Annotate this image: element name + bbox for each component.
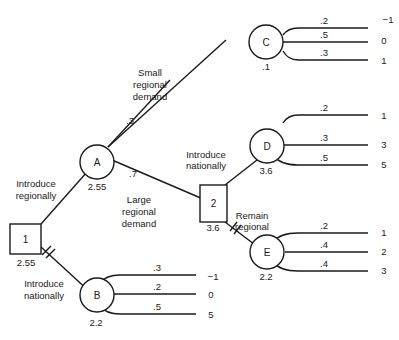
node-E-value: 2.2: [259, 271, 272, 282]
edge-label-small-3: demand: [133, 91, 167, 102]
node-A-label: A: [94, 157, 101, 168]
edge-label-introduce-nationally-2: nationally: [24, 290, 64, 301]
prob-D-3: .5: [320, 152, 328, 163]
payoff-B-1: −1: [208, 271, 219, 282]
node-C-value: .1: [262, 61, 270, 72]
prob-B-1: .3: [153, 262, 161, 273]
edge-label-large-2: regional: [122, 206, 156, 217]
prob-D-1: .2: [320, 102, 328, 113]
prob-C-2: .5: [320, 29, 328, 40]
edge-label-introduce-regionally-1: Introduce: [16, 178, 56, 189]
prob-C-3: .3: [320, 47, 328, 58]
prob-B-2: .2: [153, 281, 161, 292]
node-C-label: C: [262, 37, 269, 48]
payoff-C-3: 1: [381, 55, 386, 66]
payoff-E-3: 3: [381, 265, 386, 276]
prob-C-1: .2: [320, 15, 328, 26]
edge-label-small-1: Small: [138, 67, 162, 78]
node-2-value: 3.6: [206, 222, 219, 233]
payoff-C-2: 0: [381, 35, 386, 46]
node-D-value: 3.6: [259, 165, 272, 176]
prob-D-2: .3: [320, 132, 328, 143]
edge-label-remain-2: regional: [235, 221, 269, 232]
payoff-D-1: 1: [381, 110, 386, 121]
edge-label-2-introduce-2: nationally: [186, 160, 226, 171]
edge-label-large-1: Large: [127, 194, 151, 205]
node-B-label: B: [94, 290, 101, 301]
node-1-value: 2.55: [17, 257, 36, 268]
decision-tree-diagram: 1 2.55 2 3.6 A 2.55 B 2.2 C .1 D 3.6 E 2…: [0, 0, 399, 340]
payoff-B-3: 5: [208, 309, 213, 320]
payoff-B-2: 0: [208, 289, 213, 300]
payoff-C-1: −1: [383, 14, 394, 25]
prob-B-3: .5: [153, 301, 161, 312]
branch-B-1: [100, 275, 196, 283]
node-D-label: D: [263, 141, 270, 152]
edge-label-large-3: demand: [122, 218, 156, 229]
edge-label-introduce-nationally-1: Introduce: [24, 278, 64, 289]
branch-B-3: [100, 306, 196, 314]
node-1-label: 1: [23, 234, 29, 245]
node-2-label: 2: [211, 198, 217, 209]
node-B-value: 2.2: [89, 317, 102, 328]
edge-label-small-2: regional: [133, 79, 167, 90]
branch-D-1: [283, 115, 368, 123]
prob-E-2: .4: [320, 239, 328, 250]
prob-A-C: .3: [126, 115, 134, 126]
node-E-label: E: [264, 247, 271, 258]
prob-A-2: .7: [129, 168, 137, 179]
payoff-E-2: 2: [381, 246, 386, 257]
node-A-value: 2.55: [88, 181, 107, 192]
payoff-E-1: 1: [381, 227, 386, 238]
edge-label-introduce-regionally-2: regionally: [16, 190, 57, 201]
payoff-D-2: 3: [381, 139, 386, 150]
prob-E-3: .4: [320, 258, 328, 269]
payoff-D-3: 5: [381, 159, 386, 170]
edge-label-remain-1: Remain: [236, 210, 269, 221]
edge-label-2-introduce-1: Introduce: [186, 149, 226, 160]
prob-E-1: .2: [320, 220, 328, 231]
